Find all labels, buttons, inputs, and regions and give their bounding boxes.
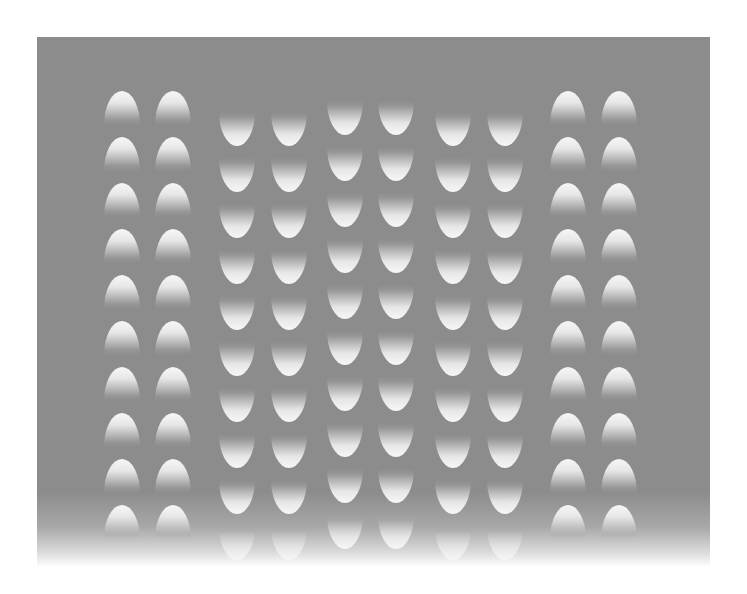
egg-shape-down <box>271 388 307 422</box>
egg-shape-down <box>327 515 363 549</box>
egg-shape-up <box>155 367 191 401</box>
egg-shape-up <box>550 229 586 263</box>
egg-shape-down <box>435 204 471 238</box>
egg-shape-down <box>271 434 307 468</box>
egg-shape-down <box>327 377 363 411</box>
egg-shape-up <box>601 321 637 355</box>
egg-shape-up <box>601 91 637 125</box>
egg-shape-down <box>327 193 363 227</box>
egg-shape-down <box>378 331 414 365</box>
egg-shape-down <box>219 112 255 146</box>
egg-shape-down <box>435 342 471 376</box>
egg-shape-down <box>219 342 255 376</box>
egg-shape-down <box>435 112 471 146</box>
egg-shape-up <box>550 321 586 355</box>
egg-shape-down <box>378 423 414 457</box>
egg-shape-down <box>435 388 471 422</box>
egg-shape-down <box>487 250 523 284</box>
egg-shape-down <box>487 112 523 146</box>
egg-shape-up <box>104 275 140 309</box>
egg-shape-down <box>327 285 363 319</box>
egg-shape-down <box>271 158 307 192</box>
egg-shape-down <box>219 158 255 192</box>
egg-shape-down <box>219 250 255 284</box>
egg-shape-up <box>155 91 191 125</box>
egg-shape-down <box>435 434 471 468</box>
egg-shape-down <box>271 480 307 514</box>
egg-shape-up <box>104 229 140 263</box>
egg-shape-down <box>435 250 471 284</box>
egg-shape-up <box>104 183 140 217</box>
egg-shape-down <box>487 296 523 330</box>
egg-shape-up <box>550 459 586 493</box>
egg-shape-down <box>327 331 363 365</box>
egg-shape-up <box>601 183 637 217</box>
egg-shape-down <box>378 285 414 319</box>
egg-shape-up <box>601 137 637 171</box>
egg-shape-down <box>271 204 307 238</box>
egg-shape-up <box>601 367 637 401</box>
egg-shape-down <box>378 193 414 227</box>
egg-shape-down <box>378 377 414 411</box>
egg-shape-down <box>378 101 414 135</box>
egg-shape-up <box>550 91 586 125</box>
egg-shape-up <box>550 413 586 447</box>
egg-shape-down <box>327 469 363 503</box>
egg-shape-up <box>155 413 191 447</box>
egg-shape-up <box>550 137 586 171</box>
egg-shape-up <box>155 137 191 171</box>
egg-shape-down <box>219 296 255 330</box>
egg-shape-down <box>435 480 471 514</box>
egg-shape-up <box>104 505 140 539</box>
egg-shape-down <box>435 158 471 192</box>
egg-shape-up <box>550 505 586 539</box>
egg-shape-up <box>155 275 191 309</box>
egg-shape-up <box>601 275 637 309</box>
egg-shape-down <box>435 526 471 560</box>
egg-shape-up <box>104 367 140 401</box>
egg-shape-up <box>155 183 191 217</box>
egg-shape-down <box>487 158 523 192</box>
egg-shape-down <box>327 239 363 273</box>
egg-shape-up <box>155 321 191 355</box>
egg-shape-up <box>104 413 140 447</box>
egg-shape-up <box>601 413 637 447</box>
egg-shape-down <box>378 147 414 181</box>
egg-shape-down <box>487 480 523 514</box>
egg-shape-up <box>104 137 140 171</box>
egg-shape-up <box>104 459 140 493</box>
egg-shape-up <box>601 229 637 263</box>
egg-shape-down <box>271 250 307 284</box>
egg-shape-down <box>271 112 307 146</box>
egg-shape-down <box>487 388 523 422</box>
egg-shape-up <box>155 505 191 539</box>
egg-shape-down <box>219 434 255 468</box>
egg-shape-down <box>378 239 414 273</box>
egg-grid <box>0 0 747 594</box>
egg-shape-up <box>601 505 637 539</box>
egg-shape-up <box>601 459 637 493</box>
egg-shape-up <box>155 459 191 493</box>
egg-shape-down <box>487 526 523 560</box>
egg-shape-up <box>104 321 140 355</box>
egg-shape-up <box>550 367 586 401</box>
egg-shape-down <box>271 296 307 330</box>
egg-shape-down <box>487 342 523 376</box>
egg-shape-down <box>327 423 363 457</box>
egg-shape-down <box>271 342 307 376</box>
egg-shape-down <box>219 204 255 238</box>
egg-shape-down <box>271 526 307 560</box>
egg-shape-up <box>104 91 140 125</box>
egg-shape-down <box>327 101 363 135</box>
egg-shape-down <box>219 526 255 560</box>
egg-shape-up <box>155 229 191 263</box>
egg-shape-down <box>219 388 255 422</box>
egg-shape-down <box>378 515 414 549</box>
egg-shape-down <box>487 204 523 238</box>
egg-shape-down <box>487 434 523 468</box>
egg-shape-up <box>550 275 586 309</box>
egg-shape-down <box>327 147 363 181</box>
egg-shape-down <box>435 296 471 330</box>
egg-shape-down <box>219 480 255 514</box>
egg-shape-down <box>378 469 414 503</box>
